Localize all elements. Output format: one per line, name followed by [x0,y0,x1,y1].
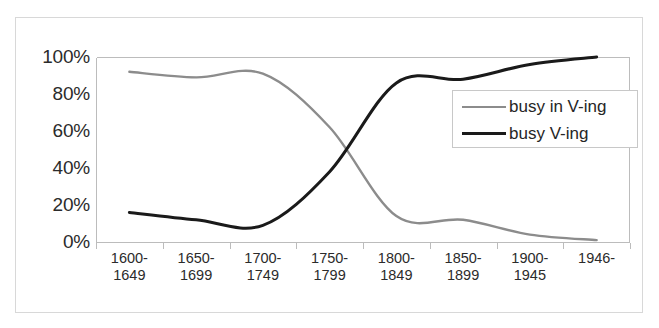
legend-swatch-black-icon [462,132,506,135]
x-axis-tick-labels: 1600-16491650-16991700-17491750-17991800… [0,250,659,300]
y-tick-label-0: 0% [0,232,90,251]
x-tick-label-line2: 1849 [359,267,433,284]
legend-item-busy-v-ing: busy V-ing [453,119,639,148]
y-tick-label-100: 100% [0,47,90,66]
x-tick-label-line2: 1799 [293,267,367,284]
legend-label-1: busy V-ing [509,125,588,142]
y-tick-label-40: 40% [0,158,90,177]
x-tick-label-line2: 1699 [159,267,233,284]
y-tick-label-60: 60% [0,121,90,140]
chart-figure: 100%80%60%40%20%0% 1600-16491650-1699170… [0,0,659,328]
x-tick-label-line2: 1945 [493,267,567,284]
chart-legend: busy in V-ing busy V-ing [452,90,638,148]
series-lines [129,57,596,240]
x-tick-label-0: 1600-1649 [92,250,166,284]
x-tick-label-line2: 1749 [226,267,300,284]
x-tick-label-line1: 1600- [92,250,166,267]
x-tick-label-line1: 1700- [226,250,300,267]
x-tick-label-line2: 1649 [92,267,166,284]
x-tick-label-line1: 1750- [293,250,367,267]
x-tick-label-line1: 1850- [426,250,500,267]
x-tick-label-line1: 1650- [159,250,233,267]
x-axis-ticks [97,243,631,249]
x-tick-label-line1: 1946- [560,250,634,267]
legend-label-0: busy in V-ing [509,98,606,115]
y-tick-label-80: 80% [0,84,90,103]
x-tick-label-5: 1850-1899 [426,250,500,284]
x-tick-label-line1: 1900- [493,250,567,267]
y-tick-label-20: 20% [0,195,90,214]
legend-item-busy-in-v-ing: busy in V-ing [453,92,639,121]
x-tick-label-4: 1800-1849 [359,250,433,284]
x-tick-label-6: 1900-1945 [493,250,567,284]
x-tick-label-line2: 1899 [426,267,500,284]
legend-swatch-gray-icon [462,106,506,108]
x-tick-label-2: 1700-1749 [226,250,300,284]
plot-area-frame [97,58,630,243]
x-tick-label-1: 1650-1699 [159,250,233,284]
x-tick-label-3: 1750-1799 [293,250,367,284]
x-tick-label-7: 1946- [560,250,634,267]
x-tick-label-line1: 1800- [359,250,433,267]
